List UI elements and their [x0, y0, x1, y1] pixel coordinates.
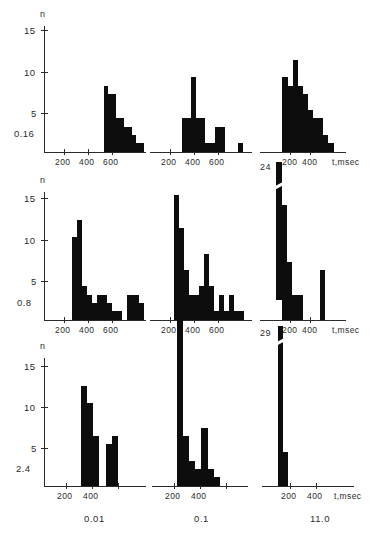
histogram-bar [220, 127, 225, 152]
x-axis [260, 152, 346, 153]
x-tick-label-200: 200 [165, 492, 180, 501]
figure-histogram-grid: n 15 10 5 0.16 200 400 600 200 400 600 [0, 0, 380, 534]
x-axis-title: t,msec [332, 326, 359, 335]
x-tick-label-400: 400 [302, 326, 317, 335]
x-tick-label-200: 200 [282, 158, 297, 167]
x-tick-label-400: 400 [302, 158, 317, 167]
x-tick-label-400: 400 [191, 492, 206, 501]
x-tick [174, 483, 175, 489]
histogram-bar [112, 436, 118, 486]
x-axis [44, 486, 146, 487]
x-axis [260, 320, 346, 321]
y-tick-label-15: 15 [24, 26, 35, 36]
x-axis [150, 152, 252, 153]
x-tick [64, 149, 65, 155]
histogram-bar [238, 143, 243, 152]
y-axis-title: n [40, 342, 45, 351]
x-tick-label-400: 400 [83, 492, 98, 501]
y-axis [44, 192, 45, 321]
histogram-bar [297, 295, 303, 320]
panel-row1-col3: 200 400 t,msec [258, 0, 380, 172]
x-axis-title: t,msec [332, 158, 359, 167]
x-tick-label-600: 600 [209, 326, 224, 335]
x-tick-label-400: 400 [185, 326, 200, 335]
panel-row1-col2: 200 400 600 [148, 0, 263, 172]
histogram-bar [239, 311, 244, 320]
y-tick-label-5: 5 [31, 277, 37, 287]
panel-row3-col3: 200 400 t,msec 11.0 29 [258, 336, 380, 534]
x-tick [170, 317, 171, 323]
x-tick [170, 149, 171, 155]
x-tick [118, 483, 119, 489]
histogram-bar [328, 143, 334, 152]
y-tick-label-10: 10 [24, 236, 35, 246]
x-tick-label-400: 400 [307, 492, 322, 501]
y-tick [41, 407, 48, 408]
histogram-bar [117, 311, 122, 320]
x-tick-label-600: 600 [103, 158, 118, 167]
y-axis-title: n [40, 176, 45, 185]
y-tick [41, 281, 48, 282]
clipped-bar-value-29: 29 [260, 329, 271, 338]
x-tick-label-400: 400 [79, 158, 94, 167]
y-baseline-label: 0.8 [17, 298, 31, 308]
panel-row1-col1: n 15 10 5 0.16 200 400 600 [0, 0, 150, 172]
panel-row2-col2: 200 400 600 [148, 168, 263, 340]
clipped-bar-value-24: 24 [260, 163, 271, 172]
y-tick [41, 198, 48, 199]
x-tick [316, 483, 317, 489]
x-tick-label-200: 200 [282, 326, 297, 335]
x-tick-label-200: 200 [161, 158, 176, 167]
y-tick-label-10: 10 [24, 403, 35, 413]
panel-row2-col1: n 15 10 5 0.8 200 400 600 [0, 168, 150, 340]
y-baseline-label: 0.16 [14, 129, 34, 139]
column-label-01: 0.1 [194, 514, 209, 524]
y-tick [41, 448, 48, 449]
x-tick-label-600: 600 [103, 326, 118, 335]
panel-row2-col3: 200 400 t,msec 24 [258, 168, 380, 340]
column-label-110: 11.0 [310, 514, 330, 524]
x-axis [44, 320, 146, 321]
histogram-bar [140, 143, 144, 152]
x-tick-label-400: 400 [185, 158, 200, 167]
y-axis [44, 358, 45, 487]
y-tick [41, 366, 48, 367]
x-tick [290, 483, 291, 489]
histogram-bar [214, 477, 220, 486]
histogram-bar [283, 452, 288, 486]
x-tick [88, 149, 89, 155]
histogram-bar [139, 303, 144, 320]
y-tick-label-15: 15 [24, 194, 35, 204]
x-tick-label-400: 400 [79, 326, 94, 335]
x-tick-label-600: 600 [209, 158, 224, 167]
x-axis [262, 486, 354, 487]
histogram-bar [93, 436, 99, 486]
x-axis-title: t,msec [334, 492, 361, 501]
x-tick-label-200: 200 [55, 326, 70, 335]
y-tick [41, 30, 48, 31]
panel-row3-col1: n 15 10 5 2.4 200 400 0.01 [0, 336, 150, 534]
y-axis-title: n [40, 10, 45, 19]
x-tick [64, 317, 65, 323]
y-tick-label-5: 5 [31, 109, 37, 119]
x-tick-label-200: 200 [161, 326, 176, 335]
y-axis [44, 26, 45, 153]
x-tick-label-200: 200 [55, 158, 70, 167]
x-tick [66, 483, 67, 489]
x-tick-label-200: 200 [281, 492, 296, 501]
x-axis [150, 320, 252, 321]
y-baseline-label: 2.4 [16, 464, 30, 474]
x-axis [44, 152, 146, 153]
histogram-bar [320, 270, 325, 320]
x-tick-label-200: 200 [57, 492, 72, 501]
y-tick-label-15: 15 [24, 362, 35, 372]
column-label-001: 0.01 [84, 514, 105, 524]
y-tick-label-10: 10 [24, 68, 35, 78]
x-tick [226, 483, 227, 489]
y-tick-label-5: 5 [31, 444, 37, 454]
y-tick [41, 240, 48, 241]
panel-row3-col2: 200 400 0.1 [148, 336, 263, 534]
histogram-bar [201, 428, 208, 486]
x-tick [310, 317, 311, 323]
y-tick [41, 113, 48, 114]
